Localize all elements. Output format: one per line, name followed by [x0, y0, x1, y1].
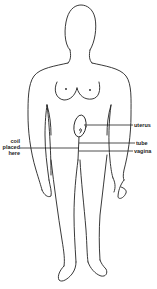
nipple-left	[65, 88, 67, 90]
label-tube: tube	[136, 140, 148, 146]
body-diagram	[0, 0, 157, 289]
label-vagina: vagina	[134, 148, 151, 154]
head-outline	[65, 5, 96, 63]
label-coil-line3: here	[2, 150, 20, 156]
label-uterus: uterus	[134, 122, 151, 128]
nipple-right	[89, 89, 91, 91]
uterus-outline	[73, 114, 88, 160]
legs-outline	[51, 155, 107, 281]
breasts-outline	[55, 82, 99, 100]
label-coil-placed-here: coil placed here	[2, 138, 20, 156]
